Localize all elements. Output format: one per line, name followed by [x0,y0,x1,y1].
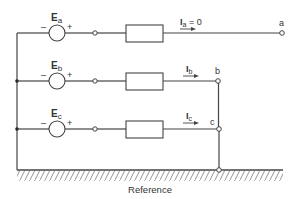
terminal-node-b [216,79,221,84]
terminal-node-c-left [93,127,97,131]
impedance-box-a [126,25,163,42]
svg-text:Ea: Ea [51,12,63,25]
impedance-box-b [126,73,163,90]
terminal-node-c [217,127,222,132]
svg-text:Ec: Ec [51,108,62,121]
voltage-source-c-icon [49,121,65,137]
svg-text:–: – [41,118,46,128]
svg-text:b: b [215,66,220,76]
svg-text:–: – [41,70,46,80]
svg-text:+: + [67,70,72,80]
branch-b [17,73,220,90]
left-bus [15,33,19,170]
terminal-node-a-left [93,31,97,35]
branch-c [17,121,221,138]
terminal-node-b-left [93,79,97,83]
voltage-source-b-icon [49,73,65,89]
branch-a [17,25,284,42]
svg-text:Ib: Ib [186,64,193,75]
terminal-labels: a b c [210,18,284,127]
svg-text:+: + [67,22,72,32]
svg-text:c: c [210,117,215,127]
svg-text:–: – [41,22,46,32]
svg-text:Eb: Eb [51,60,63,73]
ground-reference [17,170,283,181]
ground-label: Reference [128,184,172,195]
impedance-box-c [126,121,163,138]
voltage-source-a-icon [49,25,65,41]
svg-text:a: a [279,18,284,28]
circuit-diagram: Ea – + Eb – + Ec – + Ia = 0 Ib Ic a b c … [0,0,296,199]
svg-text:Ic: Ic [186,111,193,122]
svg-text:+: + [67,118,72,128]
terminal-node-a [280,31,285,36]
svg-text:Ia = 0: Ia = 0 [180,17,202,28]
